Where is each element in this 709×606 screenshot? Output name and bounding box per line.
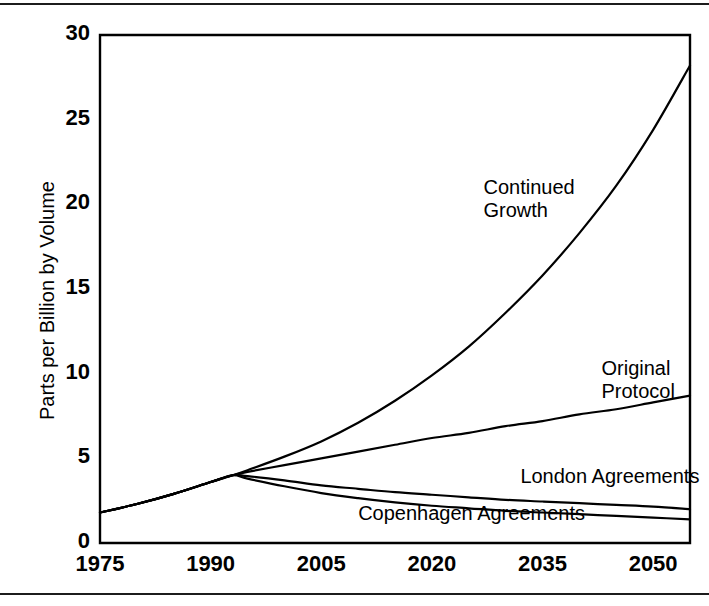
figure-container: Parts per Billion by Volume 051015202530… bbox=[0, 0, 709, 606]
series-annotation-2: London Agreements bbox=[520, 465, 699, 488]
annotation-line-2: Protocol bbox=[602, 380, 675, 403]
series-annotation-1: OriginalProtocol bbox=[602, 357, 675, 403]
annotation-line-1: Original bbox=[602, 357, 675, 380]
line-chart-plot bbox=[0, 0, 709, 606]
series-annotation-0: ContinuedGrowth bbox=[484, 176, 575, 222]
plot-series bbox=[100, 65, 690, 519]
series-annotation-3: Copenhagen Agreements bbox=[358, 502, 585, 525]
annotation-line-1: Continued bbox=[484, 176, 575, 199]
annotation-line-2: Growth bbox=[484, 199, 575, 222]
series-line-1 bbox=[100, 396, 690, 513]
